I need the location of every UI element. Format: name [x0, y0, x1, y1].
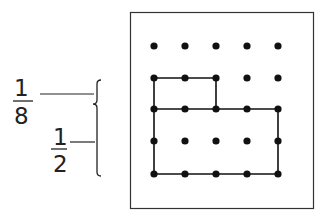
geoboard-diagram: 1 8 1 2	[0, 0, 322, 217]
grid-dot	[243, 137, 250, 144]
grid-dot	[274, 74, 281, 81]
grid-dot	[150, 105, 157, 112]
grid-dot	[150, 137, 157, 144]
fraction-bottom-denominator: 2	[53, 151, 68, 177]
grid-dot	[274, 137, 281, 144]
grid-dot	[274, 170, 281, 177]
grid-dot	[150, 170, 157, 177]
grid-dot	[150, 74, 157, 81]
grid-dot	[212, 74, 219, 81]
grid-dot	[181, 42, 188, 49]
grid-dot	[150, 42, 157, 49]
grid-dot	[212, 170, 219, 177]
brace-bottom	[97, 108, 101, 176]
grid-dot	[181, 105, 188, 112]
small-rectangle-outline	[154, 78, 216, 109]
grid-dot	[181, 137, 188, 144]
grid-dot	[212, 137, 219, 144]
fraction-bottom-numerator: 1	[53, 124, 68, 150]
dot-grid	[150, 42, 281, 177]
diagram-frame	[131, 13, 314, 209]
grid-dot	[274, 105, 281, 112]
grid-dot	[212, 42, 219, 49]
grid-dot	[243, 105, 250, 112]
grid-dot	[181, 170, 188, 177]
fraction-one-eighth: 1 8	[13, 75, 33, 129]
brace-top	[93, 80, 101, 108]
grid-dot	[181, 74, 188, 81]
grid-dot	[243, 42, 250, 49]
grid-dot	[243, 74, 250, 81]
fraction-top-denominator: 8	[14, 103, 29, 129]
grid-dot	[212, 105, 219, 112]
grid-dot	[243, 170, 250, 177]
fraction-top-numerator: 1	[14, 75, 29, 101]
grid-dot	[274, 42, 281, 49]
fraction-one-half: 1 2	[51, 124, 68, 177]
